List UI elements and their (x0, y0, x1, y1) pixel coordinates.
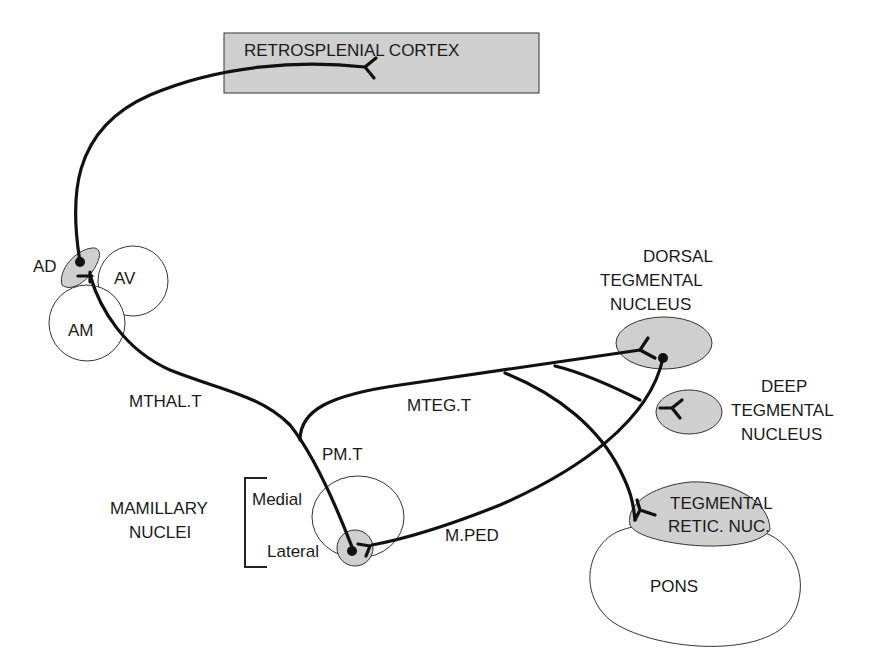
am-label: AM (68, 321, 94, 340)
dorsal-tegmental-label-line3: NUCLEUS (610, 295, 691, 314)
mthal-label: MTHAL.T (129, 392, 202, 411)
ad-cell-body-icon (75, 257, 85, 267)
pons-label: PONS (650, 577, 698, 596)
mped-tract (372, 358, 663, 545)
dorsal-tegmental-cell-body-icon (658, 353, 668, 363)
mteg-label: MTEG.T (407, 396, 471, 415)
deep-tegmental-nucleus-shape (656, 390, 722, 434)
deep-tegmental-label-line3: NUCLEUS (741, 425, 822, 444)
retrosplenial-cortex-label: RETROSPLENIAL CORTEX (244, 41, 459, 60)
dorsal-tegmental-label-line2: TEGMENTAL (600, 271, 703, 290)
mamillary-label-line1: MAMILLARY (110, 499, 208, 518)
medial-label: Medial (252, 490, 302, 509)
mteg-reticular-branch (505, 373, 635, 520)
lateral-label: Lateral (267, 542, 319, 561)
dorsal-tegmental-label-line1: DORSAL (643, 247, 713, 266)
ad-retrosplenial-tract (75, 64, 365, 262)
tegmental-retic-label-line2: RETIC. NUC. (668, 517, 770, 536)
mteg-deep-branch (555, 366, 640, 400)
ad-label: AD (33, 257, 57, 276)
lateral-mamillary-cell-body-icon (347, 546, 357, 556)
ad-nucleus-shape (61, 248, 99, 288)
tegmental-retic-label-line1: TEGMENTAL (670, 494, 773, 513)
deep-tegmental-label-line2: TEGMENTAL (731, 401, 834, 420)
pm-label: PM.T (322, 445, 363, 464)
deep-tegmental-label-line1: DEEP (761, 377, 807, 396)
mamillary-circuit-diagram: RETROSPLENIAL CORTEX PONS TEGMENTAL RETI… (0, 0, 893, 665)
mamillary-label-line2: NUCLEI (129, 523, 191, 542)
av-label: AV (114, 269, 136, 288)
mped-label: M.PED (445, 526, 499, 545)
